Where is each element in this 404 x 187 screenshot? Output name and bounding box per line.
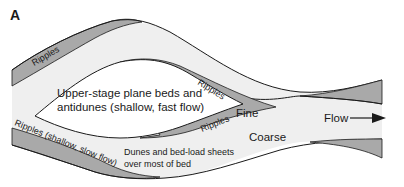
coarse-label: Coarse [249,131,286,143]
flow-label: Flow [324,112,349,124]
bar-label-line1: Upper-stage plane beds and [57,87,202,99]
channel-bedform-diagram: A Ripples Upper-stage plane beds and ant… [0,0,404,187]
dunes-label-line2: over most of bed [124,159,191,169]
fine-label: Fine [236,107,258,119]
dunes-label-line1: Dunes and bed-load sheets [124,147,235,157]
ripple-wedge-lower-right [310,139,382,158]
panel-label: A [10,7,20,23]
bar-label-line2: antidunes (shallow, fast flow) [57,101,204,113]
